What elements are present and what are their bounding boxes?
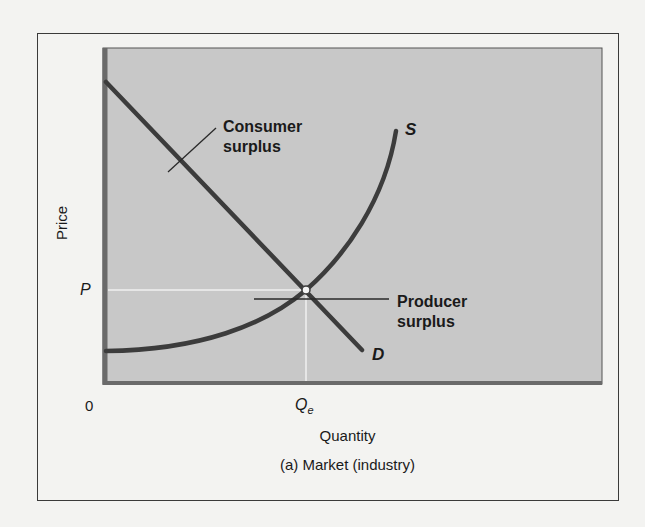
demand-label: D xyxy=(372,345,384,365)
chart-canvas xyxy=(0,0,645,527)
chart-title: (a) Market (industry) xyxy=(0,456,645,473)
y-axis-label: Price xyxy=(53,206,70,240)
consumer-label-line1: Consumer xyxy=(223,117,302,137)
consumer-label-line2: surplus xyxy=(223,137,302,157)
equilibrium-point xyxy=(302,286,310,294)
origin-label: 0 xyxy=(85,397,93,414)
producer-label-line1: Producer xyxy=(397,292,467,312)
qe-main: Q xyxy=(295,396,307,413)
producer-label-line2: surplus xyxy=(397,312,467,332)
supply-label: S xyxy=(405,120,416,140)
price-tick-label: P xyxy=(80,281,91,299)
consumer-surplus-label: Consumer surplus xyxy=(223,117,302,157)
qe-sub: e xyxy=(307,404,313,416)
x-axis-label: Quantity xyxy=(0,427,645,444)
quantity-tick-label: Qe xyxy=(295,396,314,416)
producer-surplus-label: Producer surplus xyxy=(397,292,467,332)
plot-area xyxy=(103,48,602,384)
